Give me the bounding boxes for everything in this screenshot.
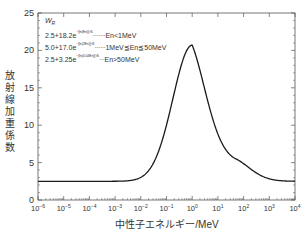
y-label-char: 重 — [4, 118, 16, 130]
x-tick-label: 10−2 — [134, 203, 148, 213]
y-label-char: 係 — [4, 130, 16, 142]
legend-title: WR — [45, 16, 166, 28]
y-tick-label: 5 — [29, 158, 34, 168]
x-tick-label: 10−3 — [108, 203, 122, 213]
y-tick-label: 0 — [29, 195, 34, 205]
x-tick-label: 104 — [289, 203, 300, 213]
y-label-char: 放 — [4, 70, 16, 82]
y-label-char: 射 — [4, 82, 16, 94]
legend-row: 2.5+3.25e−[ln(0.04En)]²/6···En>50MeV — [45, 52, 166, 64]
legend-row: 5.0+17.0e−[ln(2En)]²/6······1MeV≦En≦50Me… — [45, 40, 166, 52]
y-axis-label: 放 射 線 加 重 係 数 — [4, 70, 16, 154]
legend: WR 2.5+18.2e−[ln(En)]²/6·······En<1MeV 5… — [45, 16, 166, 64]
y-label-char: 線 — [4, 94, 16, 106]
x-axis-label: 中性子エネルギー/MeV — [0, 216, 304, 231]
y-tick-label: 15 — [24, 83, 34, 93]
y-tick-label: 20 — [24, 45, 34, 55]
legend-row: 2.5+18.2e−[ln(En)]²/6·······En<1MeV — [45, 28, 166, 40]
x-tick-label: 101 — [212, 203, 223, 213]
x-tick-label: 103 — [264, 203, 275, 213]
wr-curve — [38, 45, 295, 181]
x-tick-label: 10−5 — [57, 203, 71, 213]
x-tick-label: 10−4 — [82, 203, 96, 213]
y-label-char: 数 — [4, 142, 16, 154]
x-tick-label: 10−1 — [159, 203, 173, 213]
y-label-char: 加 — [4, 106, 16, 118]
y-tick-label: 10 — [24, 120, 34, 130]
y-tick-label: 25 — [24, 8, 34, 18]
x-tick-label: 102 — [238, 203, 249, 213]
x-tick-label: 100 — [187, 203, 198, 213]
